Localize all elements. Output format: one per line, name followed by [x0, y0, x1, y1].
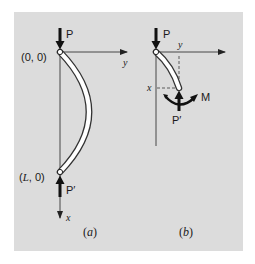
end-point-label: (L, 0) — [19, 171, 45, 183]
force-p-label-b: P — [163, 28, 170, 40]
moment-label: M — [201, 91, 210, 103]
x-coordinate-label-b: x — [146, 82, 152, 93]
pin-bottom-a — [57, 169, 62, 174]
force-p-prime-label-a: P′ — [66, 184, 75, 196]
panel-b: y x P P′ M (b) — [146, 28, 225, 239]
x-axis-label-a: x — [65, 212, 71, 223]
pin-top-a — [57, 49, 62, 54]
panel-a: y x P P′ (0, 0) (L, 0) (a) — [19, 28, 128, 239]
caption-b: (b) — [179, 225, 193, 239]
pin-top-b — [153, 49, 158, 54]
y-axis-label-b: y — [177, 39, 183, 50]
y-axis-label-a: y — [122, 57, 128, 68]
force-p-prime-label-b: P′ — [172, 114, 181, 126]
origin-label: (0, 0) — [21, 51, 47, 63]
force-p-label-a: P — [66, 28, 73, 40]
column-buckling-diagram: y x P P′ (0, 0) (L, 0) (a) y x — [0, 0, 255, 264]
caption-a: (a) — [83, 225, 97, 239]
